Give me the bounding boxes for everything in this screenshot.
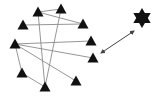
triangle-node-icon [71, 76, 82, 86]
triangle-node-icon [17, 68, 28, 78]
triangle-node-icon [18, 20, 29, 30]
six-pointed-star-icon [133, 8, 150, 28]
double-arrow-connector [101, 31, 134, 53]
triangle-node-icon [86, 36, 97, 46]
edges-group [15, 9, 93, 87]
edge-line [15, 41, 91, 44]
triangle-node-icon [56, 4, 67, 14]
triangle-node-icon [40, 82, 51, 92]
edge-line [23, 24, 83, 25]
edge-line [38, 12, 83, 24]
triangle-node-icon [78, 19, 89, 29]
edge-line [45, 9, 61, 87]
network-diagram [0, 0, 164, 97]
